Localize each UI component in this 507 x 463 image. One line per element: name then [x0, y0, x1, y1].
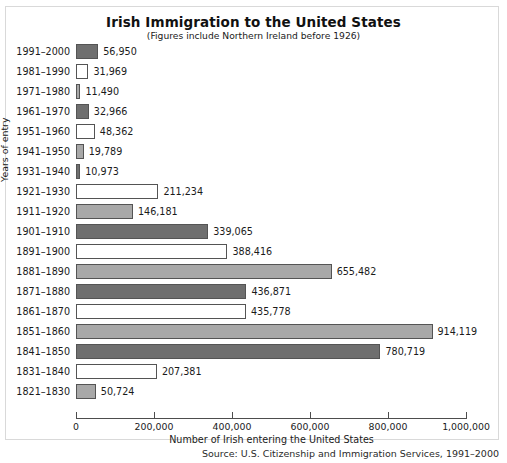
- category-label: 1941–1950: [0, 144, 70, 159]
- bar-value-label: 56,950: [103, 44, 137, 59]
- bar[interactable]: [76, 304, 246, 319]
- bar-value-label: 780,719: [385, 344, 425, 359]
- bar[interactable]: [76, 244, 227, 259]
- x-tick-label: 0: [73, 421, 79, 432]
- bar[interactable]: [76, 64, 88, 79]
- bar-row: 1841–1850780,719: [0, 344, 507, 364]
- bar-value-label: 32,966: [94, 104, 128, 119]
- x-axis-right-cap: [466, 412, 467, 419]
- category-label: 1991–2000: [0, 44, 70, 59]
- x-tick-label: 200,000: [135, 421, 174, 432]
- x-tick-label: 800,000: [369, 421, 408, 432]
- bar-value-label: 339,065: [213, 224, 253, 239]
- category-label: 1971–1980: [0, 84, 70, 99]
- category-label: 1931–1940: [0, 164, 70, 179]
- category-label: 1981–1990: [0, 64, 70, 79]
- category-label: 1951–1960: [0, 124, 70, 139]
- bar-value-label: 19,789: [89, 144, 123, 159]
- bar[interactable]: [76, 104, 89, 119]
- bar-row: 1871–1880436,871: [0, 284, 507, 304]
- category-label: 1881–1890: [0, 264, 70, 279]
- bar-row: 1941–195019,789: [0, 144, 507, 164]
- category-label: 1861–1870: [0, 304, 70, 319]
- bar[interactable]: [76, 264, 332, 279]
- bar[interactable]: [76, 164, 80, 179]
- bar[interactable]: [76, 124, 95, 139]
- x-tick-mark: [232, 412, 233, 419]
- bar-row: 1881–1890655,482: [0, 264, 507, 284]
- bar-value-label: 211,234: [163, 184, 203, 199]
- bar-row: 1981–199031,969: [0, 64, 507, 84]
- bar-value-label: 10,973: [85, 164, 119, 179]
- bar-value-label: 435,778: [251, 304, 291, 319]
- category-label: 1871–1880: [0, 284, 70, 299]
- category-label: 1901–1910: [0, 224, 70, 239]
- bar-row: 1851–1860914,119: [0, 324, 507, 344]
- x-axis-title: Number of Irish entering the United Stat…: [76, 434, 467, 445]
- x-tick-mark: [310, 412, 311, 419]
- chart-figure: Irish Immigration to the United States (…: [0, 0, 507, 463]
- bar-value-label: 11,490: [85, 84, 119, 99]
- x-tick-label: 400,000: [213, 421, 252, 432]
- x-axis-left-cap: [76, 412, 77, 419]
- category-label: 1891–1900: [0, 244, 70, 259]
- category-label: 1911–1920: [0, 204, 70, 219]
- bar-value-label: 31,969: [93, 64, 127, 79]
- category-label: 1851–1860: [0, 324, 70, 339]
- category-label: 1961–1970: [0, 104, 70, 119]
- bar-row: 1901–1910339,065: [0, 224, 507, 244]
- bar[interactable]: [76, 204, 133, 219]
- bar-value-label: 655,482: [337, 264, 377, 279]
- bar-row: 1821–183050,724: [0, 384, 507, 404]
- bar[interactable]: [76, 364, 157, 379]
- bar-row: 1951–196048,362: [0, 124, 507, 144]
- bar[interactable]: [76, 44, 98, 59]
- bar-value-label: 146,181: [138, 204, 178, 219]
- bar-row: 1831–1840207,381: [0, 364, 507, 384]
- bar-row: 1921–1930211,234: [0, 184, 507, 204]
- bar[interactable]: [76, 284, 246, 299]
- bar-row: 1991–200056,950: [0, 44, 507, 64]
- category-label: 1921–1930: [0, 184, 70, 199]
- category-label: 1821–1830: [0, 384, 70, 399]
- category-label: 1831–1840: [0, 364, 70, 379]
- source-caption: Source: U.S. Citizenship and Immigration…: [0, 448, 499, 459]
- bar-row: 1931–194010,973: [0, 164, 507, 184]
- x-axis-line: [76, 418, 467, 419]
- x-tick-mark: [388, 412, 389, 419]
- bar-value-label: 50,724: [101, 384, 135, 399]
- bar-value-label: 48,362: [100, 124, 134, 139]
- bar-row: 1961–197032,966: [0, 104, 507, 124]
- bar[interactable]: [76, 324, 433, 339]
- chart-title: Irish Immigration to the United States: [0, 14, 507, 30]
- bar-value-label: 207,381: [162, 364, 202, 379]
- x-tick-mark: [154, 412, 155, 419]
- bar[interactable]: [76, 224, 208, 239]
- bar-row: 1891–1900388,416: [0, 244, 507, 264]
- bar[interactable]: [76, 144, 84, 159]
- bar[interactable]: [76, 344, 380, 359]
- x-tick-label: 600,000: [291, 421, 330, 432]
- bar[interactable]: [76, 84, 80, 99]
- x-tick-label: 1,000,000: [442, 421, 490, 432]
- bar-value-label: 388,416: [232, 244, 272, 259]
- bar-value-label: 436,871: [251, 284, 291, 299]
- bar-value-label: 914,119: [438, 324, 478, 339]
- chart-subtitle: (Figures include Northern Ireland before…: [0, 30, 507, 41]
- bar-row: 1911–1920146,181: [0, 204, 507, 224]
- bar-row: 1861–1870435,778: [0, 304, 507, 324]
- bar[interactable]: [76, 384, 96, 399]
- category-label: 1841–1850: [0, 344, 70, 359]
- bar[interactable]: [76, 184, 158, 199]
- bar-row: 1971–198011,490: [0, 84, 507, 104]
